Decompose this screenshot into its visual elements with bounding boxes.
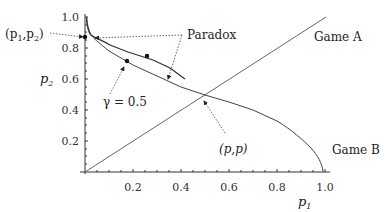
parrondo-chart: 0.2 0.4 0.6 0.8 1.0 0.2 0.4 0.6 0.8 1.0 … <box>0 0 387 212</box>
p1p2-arrow <box>50 33 83 37</box>
y-tick-label: 0.4 <box>62 104 80 117</box>
y-tick-label: 0.6 <box>62 73 80 86</box>
game-b-label: Game B <box>332 143 380 157</box>
gamma-curve <box>87 17 186 79</box>
y-tick-labels: 0.2 0.4 0.6 0.8 1.0 <box>62 11 80 148</box>
y-tick-label: 1.0 <box>62 11 80 24</box>
x-tick-label: 0.4 <box>172 181 190 194</box>
p1p2-point <box>83 35 87 39</box>
p1p2-label: (p1,p2) <box>5 27 44 43</box>
paradox-arrow-1 <box>95 35 182 38</box>
x-tick-labels: 0.2 0.4 0.6 0.8 1.0 <box>124 181 334 194</box>
game-a-label: Game A <box>314 30 362 44</box>
y-tick-label: 0.2 <box>62 135 80 148</box>
gamma-point-2 <box>145 54 149 58</box>
gamma-arrow <box>110 67 124 94</box>
y-axis-label: p2 <box>40 71 53 88</box>
x-tick-label: 0.8 <box>268 181 286 194</box>
x-tick-label: 0.2 <box>124 181 142 194</box>
gamma-point <box>125 59 129 63</box>
x-tick-label: 0.6 <box>220 181 238 194</box>
x-axis-label: p1 <box>298 194 311 211</box>
paradox-label: Paradox <box>187 28 236 42</box>
y-tick-label: 0.8 <box>62 42 80 55</box>
pp-arrow <box>204 101 225 133</box>
gamma-label: γ = 0.5 <box>103 95 147 109</box>
pp-label: (p,p) <box>219 142 248 156</box>
x-tick-label: 1.0 <box>316 181 334 194</box>
